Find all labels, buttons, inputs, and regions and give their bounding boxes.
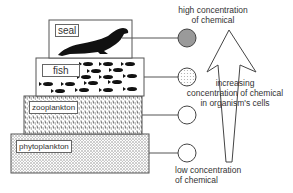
high-concentration-circle — [178, 29, 196, 47]
high-concentration-label: high concentration of chemical — [158, 5, 268, 25]
arrow-label-line1: increasing — [176, 78, 293, 88]
phytoplankton-label: phytoplankton — [16, 140, 72, 153]
low-label-line1: low concentration — [175, 165, 241, 175]
zooplankton-label: zooplankton — [29, 101, 78, 114]
medium-low-concentration-circle — [178, 106, 196, 124]
high-label-line2: of chemical — [158, 15, 268, 25]
low-label-line2: of chemical — [175, 175, 241, 185]
arrow-label-line2: concentration of chemical — [176, 88, 293, 98]
arrow-label-line3: in organism's cells — [176, 98, 293, 108]
low-concentration-circle — [178, 144, 196, 162]
seal-label: seal — [55, 24, 79, 37]
high-label-line1: high concentration — [158, 5, 268, 15]
fish-label: fish — [42, 64, 80, 77]
increasing-concentration-label: increasing concentration of chemical in … — [176, 78, 293, 108]
low-concentration-label: low concentration of chemical — [175, 165, 241, 185]
